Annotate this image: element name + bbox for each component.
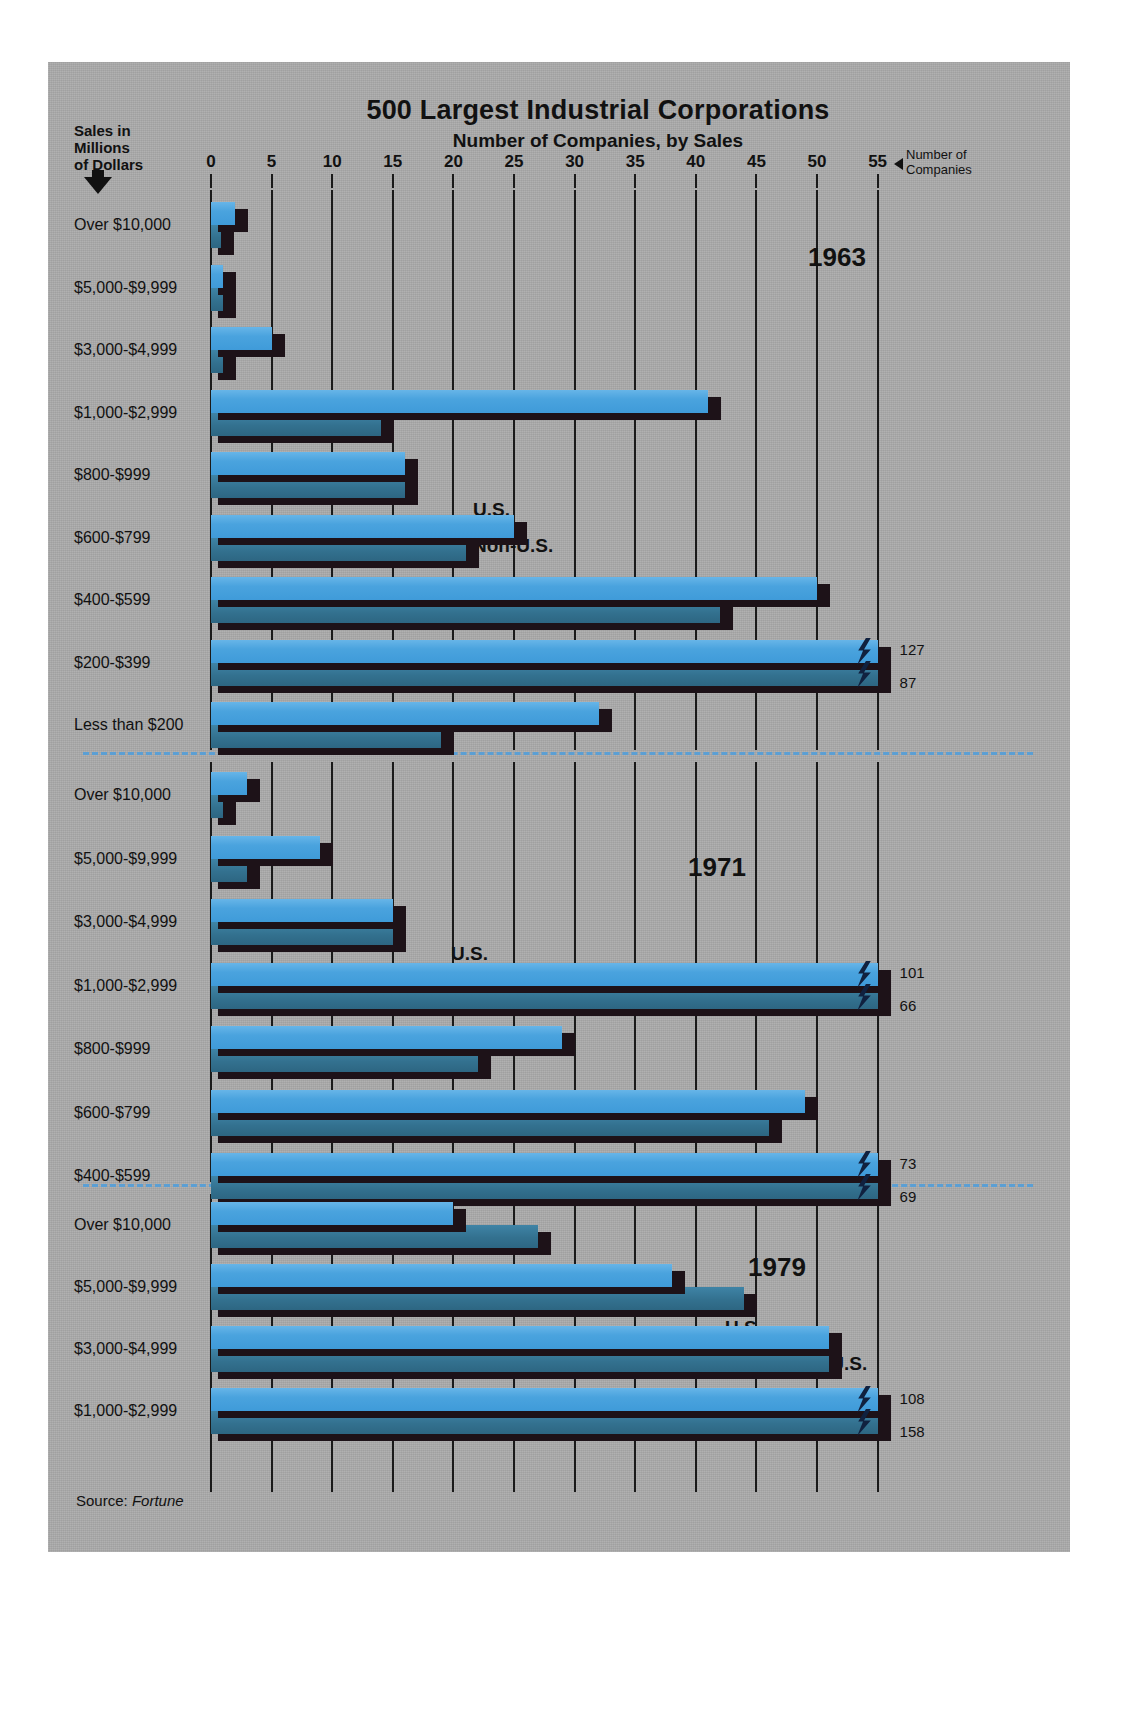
bar-us (211, 327, 272, 350)
x-axis-caption-line-2: Companies (906, 162, 1036, 177)
x-tick-mark (513, 174, 515, 188)
x-axis-caption-line-1: Number of (906, 147, 1036, 162)
bar-bottom-shadow (218, 350, 279, 357)
bar-bottom-shadow (218, 1310, 751, 1317)
bar-us (211, 1326, 829, 1349)
bar-bottom-shadow (218, 311, 230, 318)
bar-bottom-shadow (218, 986, 885, 993)
y-axis-caption-line-1: Sales in (74, 122, 204, 139)
x-tick-label: 15 (383, 152, 402, 172)
x-tick-label: 40 (686, 152, 705, 172)
x-tick-label: 50 (808, 152, 827, 172)
axis-break-bolt-icon (856, 1409, 872, 1436)
bar-us (211, 1153, 878, 1176)
bar-us (211, 577, 817, 600)
bar-face (211, 772, 247, 795)
bar-face (211, 963, 878, 986)
bar-bottom-shadow (218, 436, 388, 443)
row-label: Less than $200 (74, 716, 183, 734)
bar-bottom-shadow (218, 600, 824, 607)
bar-us (211, 1026, 562, 1049)
bar-us (211, 702, 599, 725)
source-label: Source: (76, 1492, 132, 1509)
bar-us (211, 390, 708, 413)
bar-us (211, 202, 235, 225)
row-label: $3,000-$4,999 (74, 913, 177, 931)
bar-bottom-shadow (218, 538, 521, 545)
row-label: $5,000-$9,999 (74, 850, 177, 868)
left-arrow-icon (894, 158, 903, 170)
bar-bottom-shadow (218, 748, 448, 755)
bar-value-label: 66 (900, 997, 917, 1014)
bar-bottom-shadow (218, 373, 230, 380)
x-tick-mark (210, 174, 212, 188)
row-label: $1,000-$2,999 (74, 977, 177, 995)
bar-us (211, 452, 405, 475)
bar-face (211, 899, 393, 922)
x-tick-label: 30 (565, 152, 584, 172)
row-label: $600-$799 (74, 1104, 151, 1122)
bar-bottom-shadow (218, 498, 412, 505)
row-label: $600-$799 (74, 529, 151, 547)
bar-face (211, 1202, 453, 1225)
x-tick-label: 20 (444, 152, 463, 172)
x-tick-mark (271, 174, 273, 188)
bar-us (211, 1388, 878, 1411)
x-tick-label: 5 (267, 152, 276, 172)
bar-bottom-shadow (218, 1434, 885, 1441)
bar-face (211, 390, 708, 413)
bar-us (211, 1264, 672, 1287)
bar-face (211, 1326, 829, 1349)
y-axis-caption-line-2: Millions (74, 139, 204, 156)
x-tick-label: 25 (505, 152, 524, 172)
bar-value-label: 158 (900, 1422, 925, 1439)
down-arrow-icon (84, 177, 112, 194)
row-label: $1,000-$2,999 (74, 404, 177, 422)
bar-face (211, 702, 599, 725)
bar-bottom-shadow (218, 1248, 545, 1255)
bar-face (211, 1026, 562, 1049)
year-label-1979: 1979 (748, 1252, 806, 1283)
x-tick-mark (452, 174, 454, 188)
bar-face (211, 265, 223, 288)
row-label: $800-$999 (74, 466, 151, 484)
row-label: $5,000-$9,999 (74, 279, 177, 297)
row-label: $3,000-$4,999 (74, 1340, 177, 1358)
bar-face (211, 640, 878, 663)
bar-bottom-shadow (218, 686, 885, 693)
bar-value-label: 108 (900, 1389, 925, 1406)
x-tick-mark (574, 174, 576, 188)
bar-value-label: 87 (900, 674, 917, 691)
row-label: $5,000-$9,999 (74, 1278, 177, 1296)
axis-break-bolt-icon (856, 984, 872, 1011)
bar-face (211, 577, 817, 600)
bar-bottom-shadow (218, 1113, 812, 1120)
bar-bottom-shadow (218, 225, 242, 232)
bar-bottom-shadow (218, 413, 715, 420)
bar-bottom-shadow (218, 1287, 679, 1294)
x-tick-mark (816, 174, 818, 188)
bar-us (211, 1202, 453, 1225)
bar-bottom-shadow (218, 1072, 485, 1079)
bar-bottom-shadow (218, 1136, 776, 1143)
x-tick-mark (877, 174, 879, 188)
bar-us (211, 640, 878, 663)
row-label: $400-$599 (74, 1167, 151, 1185)
x-tick-mark (634, 174, 636, 188)
bar-us (211, 515, 514, 538)
page-title: 500 Largest Industrial Corporations (248, 95, 948, 126)
bar-bottom-shadow (218, 1349, 836, 1356)
bar-bottom-shadow (218, 288, 230, 295)
gridline (877, 1194, 879, 1492)
bar-bottom-shadow (218, 725, 606, 732)
bar-bottom-shadow (218, 859, 327, 866)
axis-break-bolt-icon (856, 661, 872, 688)
bar-value-label: 101 (900, 964, 925, 981)
row-label: $800-$999 (74, 1040, 151, 1058)
bar-face (211, 452, 405, 475)
x-tick-mark (695, 174, 697, 188)
bar-value-label: 73 (900, 1154, 917, 1171)
row-label: $3,000-$4,999 (74, 341, 177, 359)
axis-break-bolt-icon (856, 1174, 872, 1201)
bar-bottom-shadow (218, 945, 400, 952)
